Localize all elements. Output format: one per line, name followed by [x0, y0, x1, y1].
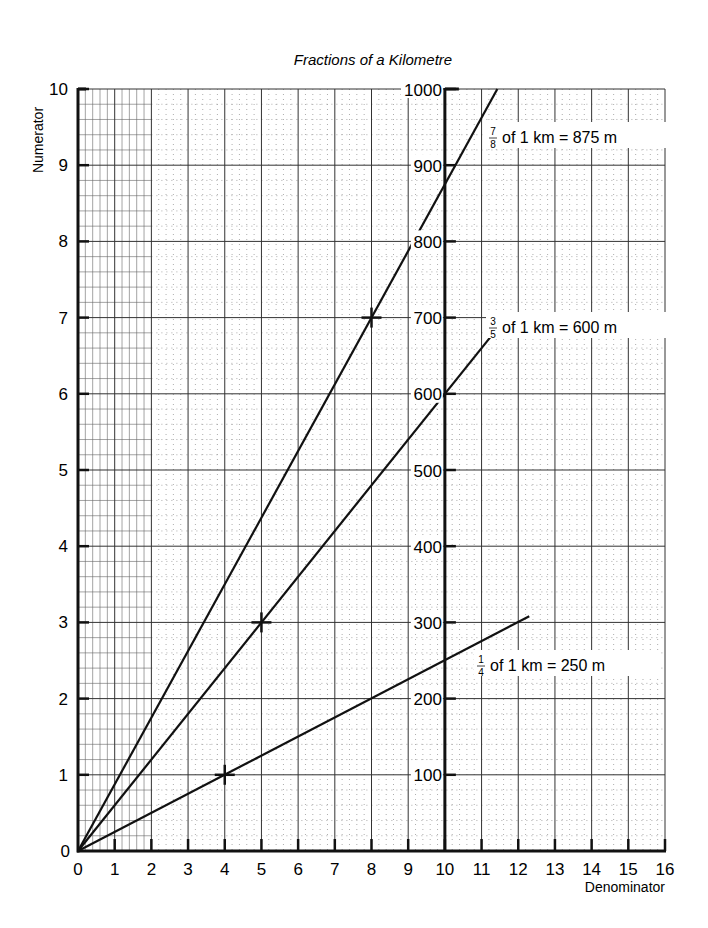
x-tick-label: 12	[509, 860, 528, 879]
x-axis-label: Denominator	[585, 879, 665, 895]
y-tick-label: 8	[59, 232, 68, 251]
secondary-tick-label: 900	[414, 157, 442, 176]
x-tick-label: 3	[183, 860, 192, 879]
x-tick-label: 4	[220, 860, 229, 879]
y-tick-label: 7	[59, 309, 68, 328]
labels: 0123456789100123456789101112131415161002…	[49, 78, 674, 879]
y-tick-label: 4	[59, 537, 68, 556]
x-tick-label: 8	[367, 860, 376, 879]
x-tick-label: 16	[656, 860, 675, 879]
y-tick-label: 9	[59, 156, 68, 175]
fraction-numerator: 1	[478, 654, 484, 665]
x-tick-label: 13	[545, 860, 564, 879]
secondary-tick-label: 600	[414, 385, 442, 404]
fraction-numerator: 3	[490, 316, 496, 327]
x-tick-label: 5	[257, 860, 266, 879]
y-tick-label: 0	[61, 842, 70, 861]
y-tick-label: 5	[59, 461, 68, 480]
x-tick-label: 0	[73, 860, 82, 879]
secondary-tick-label: 400	[414, 538, 442, 557]
secondary-tick-label: 500	[414, 462, 442, 481]
x-tick-label: 15	[619, 860, 638, 879]
series-annotation: of 1 km = 250 m	[490, 657, 605, 674]
secondary-tick-label: 700	[414, 309, 442, 328]
y-axis-label: Numerator	[30, 107, 46, 173]
secondary-tick-label: 100	[414, 766, 442, 785]
y-tick-label: 6	[59, 385, 68, 404]
x-tick-label: 1	[110, 860, 119, 879]
series-line	[78, 616, 529, 851]
x-tick-label: 14	[582, 860, 601, 879]
secondary-tick-label: 200	[414, 690, 442, 709]
x-tick-label: 2	[147, 860, 156, 879]
fraction-denominator: 8	[490, 139, 496, 150]
x-tick-label: 11	[473, 860, 491, 879]
x-tick-label: 7	[330, 860, 339, 879]
fraction-numerator: 7	[490, 126, 496, 137]
y-tick-label: 1	[59, 766, 68, 785]
secondary-tick-label: 1000	[404, 81, 442, 100]
fraction-denominator: 5	[490, 329, 496, 340]
series-annotation: of 1 km = 600 m	[502, 319, 617, 336]
y-tick-label: 3	[59, 613, 68, 632]
chart-title: Fractions of a Kilometre	[294, 51, 452, 68]
fraction-denominator: 4	[478, 667, 484, 678]
fractions-chart: 0123456789100123456789101112131415161002…	[0, 0, 708, 928]
grid	[78, 89, 665, 851]
secondary-tick-label: 300	[414, 614, 442, 633]
series-annotation: of 1 km = 875 m	[502, 129, 617, 146]
secondary-tick-label: 800	[414, 233, 442, 252]
x-tick-label: 10	[435, 860, 454, 879]
y-tick-label: 10	[49, 80, 68, 99]
y-tick-label: 2	[59, 690, 68, 709]
x-tick-label: 9	[403, 860, 412, 879]
x-tick-label: 6	[293, 860, 302, 879]
